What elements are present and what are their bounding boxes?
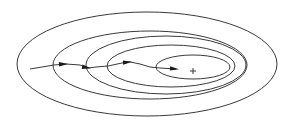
contour-ellipse-5 [156, 55, 230, 79]
contour-ellipse-2 [53, 31, 247, 99]
gradient-descent-diagram [0, 0, 290, 126]
contour-ellipse-1 [17, 12, 277, 116]
arrow-head-icon [170, 66, 179, 71]
minimum-marker [190, 68, 196, 74]
arrow-head-icon [59, 62, 68, 67]
contour-ellipse-4 [107, 45, 235, 87]
contour-lines [17, 12, 277, 116]
arrow-head-icon [123, 60, 132, 65]
descent-path [30, 62, 176, 69]
